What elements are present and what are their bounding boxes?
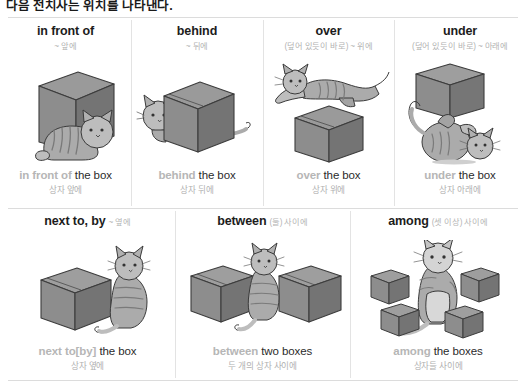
term-text: among bbox=[388, 214, 428, 228]
cell-under-header: under (덮어 있듯이 바로) ~ 아래에 bbox=[394, 24, 526, 53]
caption-in-front-of: in front of the box 상자 앞에 bbox=[0, 168, 131, 196]
term-label: behind bbox=[131, 24, 263, 39]
caption-among: among the boxes 상자들 사이에 bbox=[350, 344, 526, 372]
caption-english: next to[by] the box bbox=[0, 344, 175, 358]
illustration-cat-under-box bbox=[394, 60, 526, 165]
illustration-cat-among-boxes bbox=[350, 240, 526, 340]
term-gloss: (덮어 있듯이 바로) ~ 위에 bbox=[263, 41, 394, 53]
illustration-cat-between-boxes bbox=[175, 240, 350, 340]
caption-keyword: behind bbox=[158, 169, 195, 181]
caption-english: in front of the box bbox=[0, 168, 131, 182]
term-gloss: ~ 옆에 bbox=[109, 218, 131, 227]
caption-korean: 상자 옆에 bbox=[0, 360, 175, 372]
page-title: 다음 전치사는 위치를 나타낸다. bbox=[6, 0, 173, 13]
caption-korean: 상자 아래에 bbox=[394, 184, 526, 196]
caption-english: over the box bbox=[263, 168, 394, 182]
caption-keyword: over bbox=[296, 169, 320, 181]
caption-keyword: in front of bbox=[19, 169, 72, 181]
divider-middle bbox=[8, 208, 518, 209]
term-text: next to, by bbox=[44, 214, 105, 228]
caption-english: between two boxes bbox=[175, 344, 350, 358]
caption-rest: the boxes bbox=[431, 345, 483, 357]
caption-english: under the box bbox=[394, 168, 526, 182]
caption-keyword: among bbox=[393, 345, 430, 357]
caption-keyword: between bbox=[213, 345, 258, 357]
divider-top bbox=[8, 17, 518, 18]
caption-rest: the box bbox=[195, 169, 235, 181]
caption-keyword: next to[by] bbox=[39, 345, 97, 357]
term-text: between bbox=[217, 214, 266, 228]
caption-korean: 상자 위에 bbox=[263, 184, 394, 196]
cell-next-to-header: next to, by~ 옆에 bbox=[0, 214, 175, 230]
term-label: between(둘) 사이에 bbox=[175, 214, 350, 230]
caption-rest: two boxes bbox=[258, 345, 312, 357]
caption-english: behind the box bbox=[131, 168, 263, 182]
illustration-cat-in-front-of-box bbox=[0, 60, 131, 165]
caption-under: under the box 상자 아래에 bbox=[394, 168, 526, 196]
caption-rest: the box bbox=[456, 169, 496, 181]
caption-korean: 상자 앞에 bbox=[0, 184, 131, 196]
term-label: among(셋 이상) 사이에 bbox=[350, 214, 526, 230]
caption-rest: the box bbox=[96, 345, 136, 357]
cell-between-header: between(둘) 사이에 bbox=[175, 214, 350, 230]
illustration-cat-next-to-box bbox=[0, 240, 175, 340]
caption-korean: 두 개의 상자 사이에 bbox=[175, 360, 350, 372]
term-gloss: (둘) 사이에 bbox=[269, 218, 307, 227]
caption-next-to: next to[by] the box 상자 옆에 bbox=[0, 344, 175, 372]
term-gloss: ~ 뒤에 bbox=[131, 41, 263, 53]
caption-between: between two boxes 두 개의 상자 사이에 bbox=[175, 344, 350, 372]
cell-in-front-of-header: in front of ~ 앞에 bbox=[0, 24, 131, 53]
divider-bottom bbox=[8, 380, 518, 381]
caption-rest: the box bbox=[72, 169, 112, 181]
term-gloss: ~ 앞에 bbox=[0, 41, 131, 53]
caption-rest: the box bbox=[320, 169, 360, 181]
term-gloss: (셋 이상) 사이에 bbox=[432, 218, 488, 227]
caption-behind: behind the box 상자 뒤에 bbox=[131, 168, 263, 196]
cell-behind-header: behind ~ 뒤에 bbox=[131, 24, 263, 53]
term-label: next to, by~ 옆에 bbox=[0, 214, 175, 230]
illustration-cat-over-box bbox=[263, 60, 394, 165]
term-label: over bbox=[263, 24, 394, 39]
preposition-chart: 다음 전치사는 위치를 나타낸다. in front of ~ 앞에 bbox=[0, 0, 526, 388]
term-gloss: (덮어 있듯이 바로) ~ 아래에 bbox=[394, 41, 526, 53]
caption-keyword: under bbox=[424, 169, 455, 181]
caption-korean: 상자들 사이에 bbox=[350, 360, 526, 372]
caption-english: among the boxes bbox=[350, 344, 526, 358]
term-label: in front of bbox=[0, 24, 131, 39]
caption-korean: 상자 뒤에 bbox=[131, 184, 263, 196]
illustration-cat-behind-box bbox=[131, 60, 263, 165]
cell-over-header: over (덮어 있듯이 바로) ~ 위에 bbox=[263, 24, 394, 53]
term-label: under bbox=[394, 24, 526, 39]
cell-among-header: among(셋 이상) 사이에 bbox=[350, 214, 526, 230]
caption-over: over the box 상자 위에 bbox=[263, 168, 394, 196]
